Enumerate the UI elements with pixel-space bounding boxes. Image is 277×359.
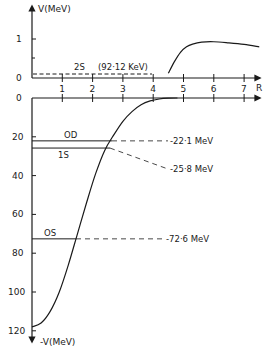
top-y-tick-label-0: 0 xyxy=(16,73,22,83)
level-os-energy: -72·6 MeV xyxy=(166,234,209,244)
x-tick-label: 2 xyxy=(90,84,96,94)
y-tick-label: 120 xyxy=(8,326,25,336)
level-1s-label: 1S xyxy=(58,150,69,160)
x-axis-label: R xyxy=(256,83,262,93)
x-tick-label: 6 xyxy=(211,84,217,94)
top-panel: V(MeV) 1 0 1234567 R 2S (92·12 KeV) xyxy=(16,4,262,94)
y-tick-label: 40 xyxy=(12,171,24,181)
level-od-label: OD xyxy=(64,130,78,140)
level-1s-leader xyxy=(110,148,168,169)
bottom-panel: 020406080100120 -V(MeV) OD -22·1 MeV 1S … xyxy=(8,93,258,347)
x-tick-label: 3 xyxy=(120,84,126,94)
bottom-y-axis-label: -V(MeV) xyxy=(40,337,75,347)
y-tick-label: 0 xyxy=(16,93,22,103)
x-tick-label: 1 xyxy=(59,84,65,94)
level-od-energy: -22·1 MeV xyxy=(170,136,213,146)
y-tick-label: 80 xyxy=(12,248,24,258)
top-x-ticks: 1234567 xyxy=(59,74,247,94)
potential-well-curve xyxy=(32,98,177,327)
level-os-label: OS xyxy=(44,228,56,238)
x-tick-label: 7 xyxy=(241,84,247,94)
nuclear-potential-diagram: V(MeV) 1 0 1234567 R 2S (92·12 KeV) 0204… xyxy=(0,0,277,359)
top-y-axis-label: V(MeV) xyxy=(38,4,71,14)
level-2s-label: 2S xyxy=(74,62,85,72)
y-tick-label: 100 xyxy=(8,287,25,297)
y-tick-label: 20 xyxy=(12,132,24,142)
x-tick-label: 5 xyxy=(181,84,187,94)
y-tick-label: 60 xyxy=(12,209,24,219)
top-y-tick-label-1: 1 xyxy=(16,34,22,44)
x-tick-label: 4 xyxy=(150,84,156,94)
barrier-curve xyxy=(168,42,259,74)
level-1s-energy: -25·8 MeV xyxy=(170,164,213,174)
level-2s-energy: (92·12 KeV) xyxy=(98,62,148,72)
